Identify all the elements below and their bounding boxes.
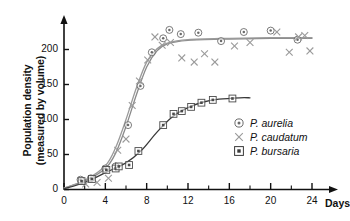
data-point-paurelia-center <box>151 51 154 54</box>
x-tick-label: 8 <box>131 195 163 206</box>
cross-icon <box>232 130 246 143</box>
y-tick-label: 0 <box>26 183 58 194</box>
series-curve-pcaudatum <box>64 38 312 189</box>
population-growth-chart: Population density (measured by volume) … <box>0 0 350 221</box>
x-axis-arrow <box>329 186 338 193</box>
y-tick-label: 50 <box>26 148 58 159</box>
data-point-pbursaria-center <box>212 99 215 102</box>
legend-item-bursaria: P. bursaria <box>232 144 308 157</box>
circle-dot-icon <box>232 116 246 129</box>
x-axis-title: Days <box>325 197 350 209</box>
data-point-paurelia-center <box>180 33 183 36</box>
data-point-pbursaria-center <box>190 106 193 109</box>
series-curve-paurelia <box>64 38 312 188</box>
data-point-paurelia-center <box>139 85 142 88</box>
data-point-paurelia-center <box>168 29 171 32</box>
data-point-pbursaria-center <box>200 101 203 104</box>
data-point-pbursaria-center <box>128 164 131 167</box>
legend-label-caudatum: P. caudatum <box>250 131 308 143</box>
data-point-paurelia-center <box>197 31 200 34</box>
x-tick-label: 12 <box>172 195 204 206</box>
x-tick-label: 4 <box>89 195 121 206</box>
data-point-paurelia-center <box>162 37 165 40</box>
chart-legend: P. aurelia P. caudatum P. bursaria <box>232 116 308 158</box>
square-dot-icon <box>232 144 246 157</box>
data-point-pbursaria-center <box>231 97 234 100</box>
x-tick-label: 16 <box>213 195 245 206</box>
y-tick-label: 100 <box>26 113 58 124</box>
legend-item-caudatum: P. caudatum <box>232 130 308 143</box>
data-point-pbursaria-center <box>117 165 120 168</box>
data-point-pbursaria-center <box>91 178 94 181</box>
y-tick-label: 150 <box>26 78 58 89</box>
data-point-paurelia-center <box>127 124 130 127</box>
legend-label-bursaria: P. bursaria <box>250 145 299 157</box>
y-tick-label: 200 <box>26 43 58 54</box>
legend-item-aurelia: P. aurelia <box>232 116 308 129</box>
x-tick-label: 0 <box>48 195 80 206</box>
data-point-paurelia-center <box>269 29 272 32</box>
data-point-pbursaria-center <box>137 150 140 153</box>
data-point-pbursaria-center <box>162 124 165 127</box>
data-point-paurelia-center <box>243 31 246 34</box>
data-point-pbursaria-center <box>80 180 83 183</box>
legend-label-aurelia: P. aurelia <box>250 117 293 129</box>
x-tick-label: 20 <box>255 195 287 206</box>
data-point-pbursaria-center <box>172 113 175 116</box>
data-point-paurelia-center <box>220 40 223 43</box>
data-point-pbursaria-center <box>181 110 184 113</box>
x-tick-label: 24 <box>296 195 328 206</box>
y-axis-arrow <box>60 15 67 24</box>
data-point-pbursaria-center <box>105 169 108 172</box>
